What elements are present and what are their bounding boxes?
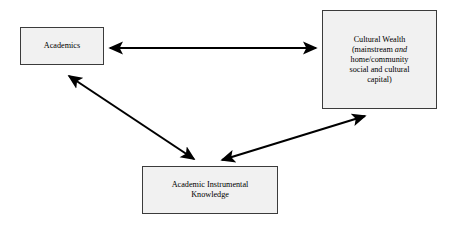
node-cultural-wealth-label: Cultural Wealth (mainstream and home/com… [346, 35, 412, 85]
connector-cultural-wealth-academic-instrumental-knowledge [222, 116, 365, 160]
node-cultural-wealth-line-3: home/community [349, 55, 409, 65]
diagram-canvas: Academics Cultural Wealth (mainstream an… [0, 0, 452, 236]
node-academic-instrumental-knowledge-line-2: Knowledge [172, 190, 249, 200]
node-cultural-wealth-line-5: capital) [349, 75, 409, 85]
node-academics[interactable]: Academics [20, 27, 104, 65]
node-cultural-wealth-line-2: (mainstream and [349, 45, 409, 55]
node-academic-instrumental-knowledge-line-1: Academic Instrumental [172, 180, 249, 190]
node-academic-instrumental-knowledge-label: Academic Instrumental Knowledge [169, 180, 252, 200]
node-cultural-wealth-line-4: social and cultural [349, 65, 409, 75]
connector-academics-academic-instrumental-knowledge [69, 76, 194, 159]
node-cultural-wealth-line-2-text: (mainstream [352, 45, 393, 54]
node-academics-label: Academics [41, 41, 83, 51]
node-cultural-wealth[interactable]: Cultural Wealth (mainstream and home/com… [322, 10, 437, 109]
node-cultural-wealth-line-2-emphasis: and [395, 45, 407, 54]
node-cultural-wealth-line-1: Cultural Wealth [349, 35, 409, 45]
node-academic-instrumental-knowledge[interactable]: Academic Instrumental Knowledge [142, 166, 278, 214]
